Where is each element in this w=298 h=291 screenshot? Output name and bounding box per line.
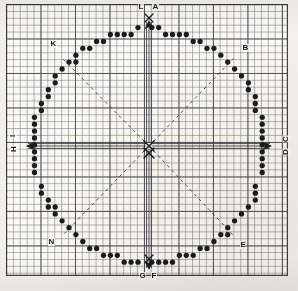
rim-dot	[32, 156, 37, 161]
rim-dot	[191, 253, 196, 258]
rim-dot	[94, 39, 99, 44]
rim-dot	[246, 80, 251, 85]
rim-dot	[260, 170, 265, 175]
label-E: E	[240, 241, 246, 249]
rim-dot	[253, 197, 258, 202]
rim-dot	[260, 115, 265, 120]
rim-dot	[225, 225, 230, 230]
rim-dot	[253, 191, 258, 196]
rim-dot	[246, 204, 251, 209]
rim-dot	[46, 94, 51, 99]
rim-dot	[80, 46, 85, 51]
rim-dot	[94, 246, 99, 251]
rim-dot	[32, 135, 37, 140]
rim-dot	[32, 128, 37, 133]
rim-dot	[128, 32, 133, 37]
chart-artwork	[0, 0, 298, 291]
rim-dot	[135, 260, 140, 265]
rim-dot	[122, 32, 127, 37]
rim-dot	[39, 191, 44, 196]
rim-dot	[163, 32, 168, 37]
label-N: N	[48, 238, 55, 246]
label-K: K	[50, 40, 57, 48]
rim-dot	[39, 184, 44, 189]
rim-dot	[80, 239, 85, 244]
rim-dot	[32, 122, 37, 127]
rim-dot	[87, 246, 92, 251]
rim-dot	[59, 218, 64, 223]
label-I: I	[9, 134, 17, 137]
rim-dot	[253, 108, 258, 113]
rim-dot	[225, 232, 230, 237]
rim-dot	[46, 204, 51, 209]
label-F: F	[151, 272, 157, 280]
label-C: C	[282, 136, 290, 143]
rim-dot	[32, 170, 37, 175]
rim-dot	[53, 211, 58, 216]
rim-dot	[39, 108, 44, 113]
rim-dot	[260, 142, 265, 147]
rim-dot	[149, 25, 154, 30]
rim-dot	[260, 135, 265, 140]
label-H: H	[10, 146, 18, 153]
rim-dot	[204, 246, 209, 251]
rim-dot	[66, 59, 71, 64]
rim-dot	[32, 149, 37, 154]
rim-dot	[59, 66, 64, 71]
rim-dot	[122, 260, 127, 265]
rim-dot	[73, 59, 78, 64]
rim-dot	[53, 80, 58, 85]
rim-dot	[246, 87, 251, 92]
rim-dot	[260, 122, 265, 127]
rim-dot	[156, 25, 161, 30]
rim-dot	[218, 53, 223, 58]
rim-dot	[32, 142, 37, 147]
rim-dot	[260, 156, 265, 161]
rim-dot	[135, 25, 140, 30]
label-L: L	[138, 3, 144, 11]
rim-dot	[211, 239, 216, 244]
rim-dot	[253, 184, 258, 189]
rim-dot	[115, 32, 120, 37]
diagonal-se-line	[149, 146, 234, 236]
rim-dot	[108, 253, 113, 258]
rim-dot	[39, 101, 44, 106]
rim-dot	[101, 253, 106, 258]
label-A: A	[152, 3, 159, 11]
scanned-chart-sheet: L A K B I H C D N E G F	[0, 0, 298, 291]
rim-dot	[239, 211, 244, 216]
rim-dot	[53, 204, 58, 209]
rim-dot	[253, 101, 258, 106]
rim-dot	[191, 39, 196, 44]
rim-dot	[156, 260, 161, 265]
rim-dot	[73, 53, 78, 58]
rim-dot	[46, 87, 51, 92]
rim-dot	[197, 39, 202, 44]
label-B: B	[242, 44, 249, 52]
diagonal-ne-line	[149, 58, 234, 146]
rim-dot	[53, 73, 58, 78]
rim-dot	[253, 94, 258, 99]
rim-dot	[170, 260, 175, 265]
diagonal-sw-line	[62, 146, 149, 236]
rim-dot	[260, 149, 265, 154]
rim-dot	[32, 163, 37, 168]
rim-dot	[66, 225, 71, 230]
rim-dot	[177, 32, 182, 37]
rim-dot	[211, 46, 216, 51]
rim-dot	[184, 32, 189, 37]
rim-dot	[87, 46, 92, 51]
rim-dot	[184, 253, 189, 258]
rim-dot	[239, 73, 244, 78]
rim-dot	[177, 253, 182, 258]
rim-dot	[197, 246, 202, 251]
diagonal-nw-line	[62, 58, 149, 146]
rim-dot	[108, 32, 113, 37]
rim-dot	[232, 66, 237, 71]
rim-dot	[225, 59, 230, 64]
rim-dot	[204, 46, 209, 51]
rim-dot	[218, 232, 223, 237]
rim-dot	[128, 260, 133, 265]
rim-dot	[232, 218, 237, 223]
label-D: D	[282, 149, 290, 156]
